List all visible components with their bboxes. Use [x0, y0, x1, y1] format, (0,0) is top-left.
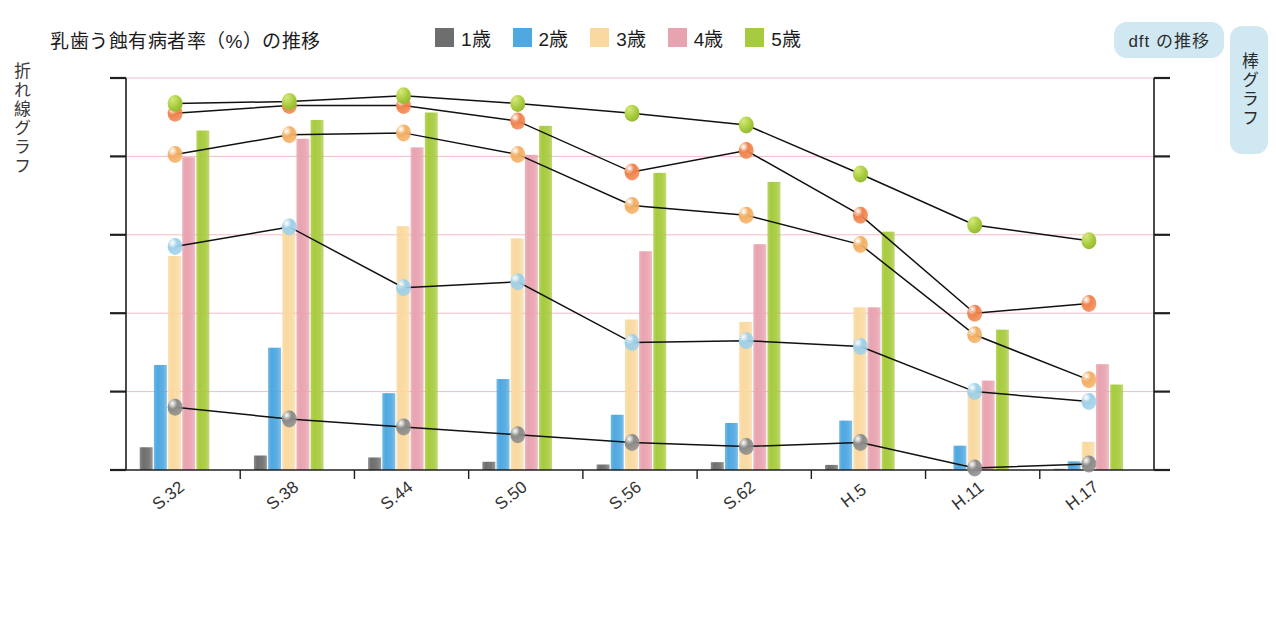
x-tick-label: S.38: [263, 477, 302, 514]
bar: [597, 465, 610, 470]
legend-swatch-icon: [668, 28, 687, 47]
bar: [839, 421, 852, 470]
line-marker: [739, 438, 754, 455]
x-tick-label: H.11: [948, 478, 987, 514]
line-marker: [739, 332, 754, 349]
line-marker: [396, 279, 411, 296]
x-tick-labels: S.32S.38S.44S.50S.56S.62H.5H.11H.17: [149, 477, 1102, 514]
bar: [1110, 385, 1123, 470]
line-marker: [168, 146, 183, 163]
line-marker: [510, 113, 525, 130]
chart-plot-area: 0204060801000246810S.32S.38S.44S.50S.56S…: [108, 70, 1176, 534]
bar: [968, 392, 981, 470]
bar: [1068, 461, 1081, 470]
bar: [254, 456, 267, 471]
bar: [525, 155, 538, 470]
bar: [382, 393, 395, 470]
line-marker: [510, 426, 525, 443]
bar: [639, 251, 652, 470]
chart-svg: 0204060801000246810S.32S.38S.44S.50S.56S…: [108, 70, 1176, 534]
line-marker: [967, 217, 982, 234]
line-graph-side-caption: 折れ線グラフ: [6, 62, 36, 252]
line-graph-side-caption-text: 折れ線グラフ: [9, 62, 34, 176]
line-marker: [510, 273, 525, 290]
line-marker: [510, 95, 525, 112]
bar: [767, 182, 780, 470]
line-marker: [853, 434, 868, 451]
line-marker: [625, 105, 640, 122]
legend-swatch-icon: [435, 28, 454, 47]
bar: [282, 231, 295, 470]
legend-item-label: 3歳: [616, 24, 646, 51]
bar-graph-side-caption: 棒グラフ: [1230, 26, 1268, 154]
x-tick-label: H.17: [1062, 477, 1102, 514]
line-marker: [282, 218, 297, 235]
line-marker: [396, 87, 411, 104]
line-marker: [396, 124, 411, 141]
bar: [711, 462, 724, 470]
bar: [368, 457, 381, 470]
bar: [140, 447, 153, 470]
line-marker: [739, 142, 754, 159]
line-marker: [168, 399, 183, 416]
line-marker: [1081, 456, 1096, 473]
legend: 1歳2歳3歳4歳5歳: [435, 24, 801, 51]
bar: [311, 120, 324, 470]
bar: [168, 256, 181, 470]
bar: [411, 147, 424, 470]
line-marker: [168, 95, 183, 112]
line-marker: [625, 434, 640, 451]
line-marker: [967, 305, 982, 322]
legend-swatch-icon: [745, 28, 764, 47]
x-tick-label: S.32: [149, 477, 188, 514]
line-marker: [625, 197, 640, 214]
line-marker: [625, 334, 640, 351]
bar: [182, 157, 195, 470]
bar: [996, 330, 1009, 470]
dft-badge: dft の推移: [1114, 22, 1224, 58]
legend-item-label: 4歳: [694, 24, 724, 51]
line-marker: [967, 326, 982, 343]
legend-item: 5歳: [745, 24, 801, 51]
bar: [196, 131, 209, 470]
line-marker: [282, 93, 297, 110]
legend-item: 2歳: [513, 24, 569, 51]
legend-item: 3歳: [590, 24, 646, 51]
line-marker: [625, 164, 640, 181]
x-tick-label: H.5: [837, 480, 870, 511]
bar: [653, 173, 666, 470]
line-marker: [739, 117, 754, 134]
legend-item-label: 1歳: [461, 24, 491, 51]
line-marker: [853, 166, 868, 183]
bar: [497, 379, 510, 470]
line-marker: [853, 207, 868, 224]
line-marker: [1081, 393, 1096, 410]
line-marker: [967, 383, 982, 400]
line-marker: [282, 411, 297, 428]
line-marker: [396, 418, 411, 435]
legend-item: 4歳: [668, 24, 724, 51]
line-marker: [1081, 232, 1096, 249]
bar-graph-side-caption-text: 棒グラフ: [1237, 52, 1262, 128]
line-marker: [1081, 295, 1096, 312]
legend-item-label: 2歳: [539, 24, 569, 51]
bar: [539, 126, 552, 470]
bar: [154, 365, 167, 470]
bar: [1096, 364, 1109, 470]
legend-swatch-icon: [590, 28, 609, 47]
x-tick-label: S.44: [377, 477, 416, 514]
x-tick-label: S.62: [720, 477, 759, 514]
line-marker: [967, 460, 982, 477]
line-marker: [853, 236, 868, 253]
bar: [482, 462, 495, 470]
legend-item-label: 5歳: [771, 24, 801, 51]
legend-swatch-icon: [513, 28, 532, 47]
page-title: 乳歯う蝕有病者率（%）の推移: [50, 26, 321, 53]
line-marker: [282, 126, 297, 143]
bar: [268, 348, 281, 470]
line-marker: [510, 146, 525, 163]
line-marker: [1081, 371, 1096, 388]
legend-item: 1歳: [435, 24, 491, 51]
x-tick-label: S.50: [491, 477, 530, 514]
bar: [753, 244, 766, 470]
